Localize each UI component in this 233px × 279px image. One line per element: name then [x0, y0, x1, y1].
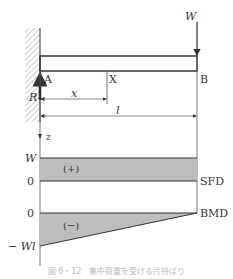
- load-label: W: [185, 11, 196, 22]
- reaction-label: R: [29, 92, 37, 103]
- point-b-label: B: [200, 74, 208, 85]
- z-axis-arrow-icon: [38, 134, 42, 139]
- sfd-sign: (+): [63, 164, 79, 174]
- point-a-label: A: [44, 74, 52, 85]
- z-axis-label: z: [46, 133, 51, 142]
- bmd-name: BMD: [200, 208, 228, 219]
- bmd-sign: (−): [63, 221, 79, 231]
- sfd-top-label: W: [25, 153, 36, 164]
- fixed-wall-hatch: [25, 28, 40, 122]
- bmd-bottom-label: − Wl: [8, 241, 36, 252]
- beam: [40, 56, 197, 71]
- bmd-zero-label: 0: [27, 208, 34, 219]
- beam-diagram-graphic: [0, 0, 233, 279]
- dimension-l-label: l: [116, 105, 120, 116]
- sfd-name: SFD: [200, 176, 224, 187]
- dimension-x-label: x: [71, 88, 77, 99]
- sfd-zero-label: 0: [27, 176, 34, 187]
- figure-caption: 図 6・12 集中荷重を受ける片持ばり: [0, 265, 233, 276]
- point-x-label: X: [109, 74, 117, 85]
